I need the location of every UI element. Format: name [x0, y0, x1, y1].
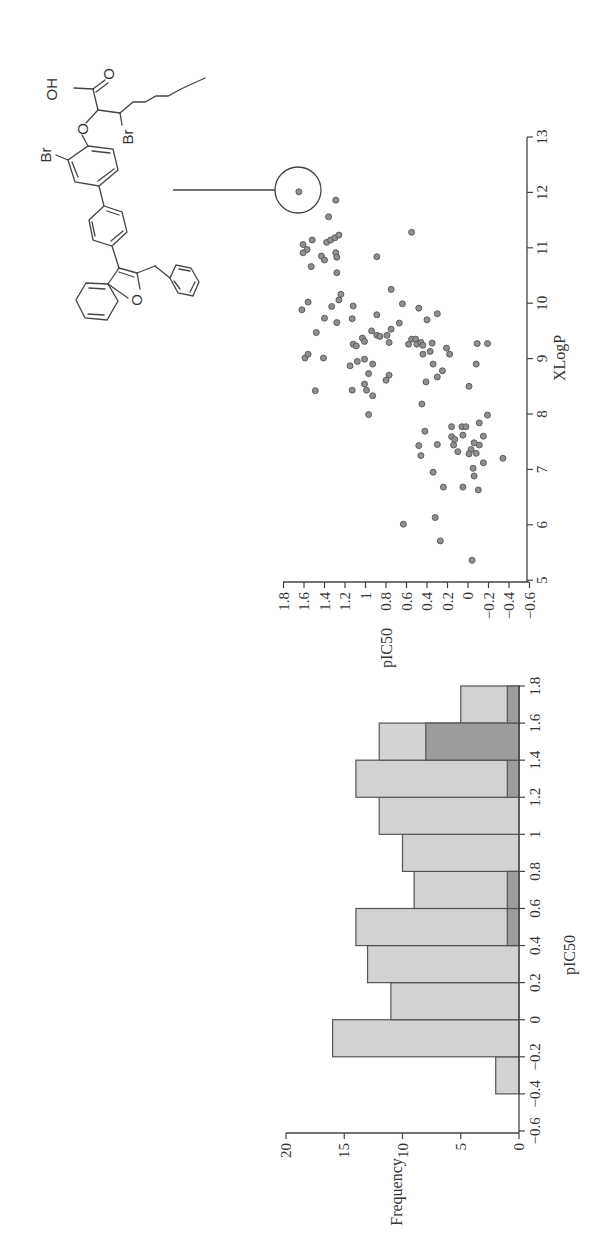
scatter-point: [305, 351, 311, 357]
scatter-pic50-ticks: 1.81.61.41.210.80.60.40.20−0.2−0.4−0.6: [276, 582, 538, 619]
scatter-point: [388, 286, 394, 292]
scatter-point: [322, 315, 328, 321]
scatter-point: [474, 341, 480, 347]
histogram-pic50-ticks: 1.81.61.41.210.80.60.40.20−0.2−0.4−0.6: [519, 677, 543, 1145]
scatter-point: [476, 420, 482, 426]
frequency-tick-label: 10: [395, 1143, 411, 1158]
scatter-pic50-tick-label: 1.2: [337, 592, 353, 611]
scatter-point: [447, 351, 453, 357]
scatter-point: [396, 320, 402, 326]
scatter-point: [473, 450, 479, 456]
scatter-point: [416, 305, 422, 311]
histogram-bar: [368, 946, 519, 983]
histogram-bar: [496, 1057, 519, 1094]
scatter-point: [476, 442, 482, 448]
scatter-point: [333, 197, 339, 203]
scatter-point: [338, 291, 344, 297]
scatter-pic50-tick-label: 1.4: [317, 592, 333, 611]
scatter-point: [434, 442, 440, 448]
scatter-point: [480, 433, 486, 439]
scatter-pic50-tick-label: −0.2: [481, 592, 497, 619]
figure: OH O O Br Br O 1312111098765 XLogP 1.81.…: [0, 0, 605, 1246]
scatter-pic50-tick-label: 0: [460, 592, 476, 600]
scatter-point: [455, 449, 461, 455]
scatter-point: [432, 515, 438, 521]
scatter-point: [419, 401, 425, 407]
scatter-point: [362, 338, 368, 344]
scatter-point: [347, 363, 353, 369]
scatter-point: [471, 473, 477, 479]
atom-o-ring: O: [74, 123, 91, 135]
scatter-point: [309, 237, 315, 243]
scatter-point: [418, 453, 424, 459]
scatter-point: [370, 393, 376, 399]
histogram-pic50-tick-label: 1.2: [527, 788, 543, 807]
scatter-point: [334, 320, 340, 326]
scatter-point: [326, 214, 332, 220]
scatter-point: [416, 443, 422, 449]
frequency-axis-label: Frequency: [388, 1158, 406, 1226]
scatter-point: [429, 340, 435, 346]
scatter-point: [427, 348, 433, 354]
scatter-point: [321, 355, 327, 361]
scatter-point: [444, 345, 450, 351]
histogram-pic50-tick-label: 0: [527, 1016, 543, 1024]
scatter-point: [370, 361, 376, 367]
scatter-pic50-axis-label: pIC50: [378, 628, 396, 668]
scatter-point: [473, 361, 479, 367]
scatter-point: [386, 372, 392, 378]
histogram-bar-highlight: [426, 723, 519, 760]
xlogp-tick-label: 9: [534, 355, 550, 363]
scatter-point: [449, 424, 455, 430]
xlogp-tick-label: 12: [534, 185, 550, 200]
histogram: 1.81.61.41.210.80.60.40.20−0.2−0.4−0.6 p…: [278, 677, 579, 1226]
scatter-point: [362, 356, 368, 362]
scatter-pic50-tick-label: 1.8: [276, 592, 292, 611]
scatter-point: [470, 465, 476, 471]
scatter-pic50-tick-label: 0.6: [399, 592, 415, 611]
histogram-pic50-tick-label: −0.2: [527, 1043, 543, 1070]
scatter-point: [475, 487, 481, 493]
scatter-pic50-tick-label: 0.2: [440, 592, 456, 611]
histogram-pic50-tick-label: 1: [527, 831, 543, 839]
xlogp-tick-label: 10: [534, 296, 550, 311]
scatter-plot: 1312111098765 XLogP 1.81.61.41.210.80.60…: [276, 130, 570, 669]
xlogp-tick-label: 8: [534, 410, 550, 418]
histogram-pic50-tick-label: 0.2: [527, 973, 543, 992]
histogram-pic50-tick-label: 1.8: [527, 677, 543, 696]
scatter-point: [334, 270, 340, 276]
histogram-bar-highlight: [507, 871, 519, 908]
scatter-point: [500, 455, 506, 461]
xlogp-axis-label: XLogP: [551, 335, 569, 381]
histogram-pic50-tick-label: −0.4: [527, 1080, 543, 1108]
frequency-tick-label: 0: [511, 1143, 527, 1151]
scatter-point: [369, 328, 375, 334]
scatter-point: [305, 299, 311, 305]
histogram-pic50-tick-label: 0.4: [527, 936, 543, 955]
scatter-point: [366, 412, 372, 418]
scatter-point: [469, 557, 475, 563]
scatter-point: [364, 387, 370, 393]
scatter-pic50-tick-label: 1.6: [296, 592, 312, 611]
scatter-point: [313, 330, 319, 336]
frequency-ticks: 20151050: [278, 1133, 527, 1158]
scatter-point: [334, 254, 340, 260]
scatter-point: [300, 242, 306, 248]
scatter-point: [308, 264, 314, 270]
histogram-bar-highlight: [507, 760, 519, 797]
xlogp-tick-label: 7: [534, 465, 550, 473]
atom-o-furan: O: [128, 294, 145, 306]
scatter-point: [349, 387, 355, 393]
scatter-point: [420, 351, 426, 357]
frequency-tick-label: 5: [453, 1143, 469, 1151]
scatter-point: [434, 374, 440, 380]
scatter-point: [329, 304, 335, 310]
histogram-pic50-tick-label: 0.8: [527, 862, 543, 881]
histogram-bar-highlight: [507, 686, 519, 723]
histogram-bar: [414, 871, 519, 908]
histogram-bar: [356, 908, 519, 945]
scatter-point: [374, 254, 380, 260]
scatter-point: [374, 312, 380, 318]
histogram-bar: [403, 834, 520, 871]
scatter-point: [434, 311, 440, 317]
